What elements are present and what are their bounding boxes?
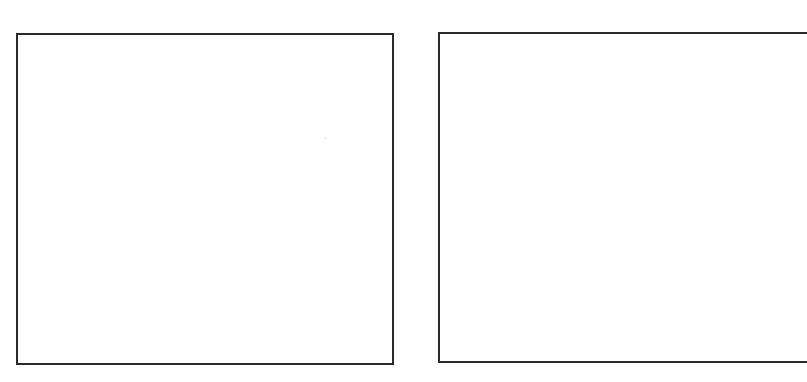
- empty-panel-right: [438, 32, 807, 363]
- empty-panel-left: [16, 33, 394, 365]
- canvas: [0, 0, 807, 382]
- artifact-dot: [325, 138, 326, 139]
